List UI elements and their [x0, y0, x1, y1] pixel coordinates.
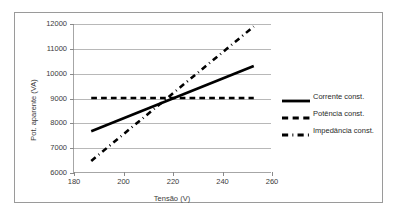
- legend-line-icon: [281, 92, 311, 102]
- y-tick-label: 6000: [50, 169, 67, 177]
- legend-item[interactable]: Potência const.: [281, 105, 381, 122]
- x-tick-mark: [74, 172, 75, 176]
- y-tick-label: 8000: [50, 120, 67, 128]
- x-tick-mark: [124, 172, 125, 176]
- x-tick-mark: [173, 172, 174, 176]
- legend-line-icon: [281, 126, 311, 136]
- plot-area: 6000700080009000100001100012000 18020022…: [73, 24, 271, 173]
- chart-frame: Pot. aparente (VA) Tensão (V) 6000700080…: [14, 12, 383, 203]
- y-axis-title: Pot. aparente (VA): [30, 79, 38, 141]
- legend-item[interactable]: Impedância const.: [281, 122, 381, 139]
- y-tick-label: 10000: [46, 70, 67, 78]
- series-layer: [74, 24, 271, 172]
- chart-root: Pot. aparente (VA) Tensão (V) 6000700080…: [0, 0, 399, 217]
- x-tick-label: 240: [216, 178, 229, 186]
- legend-label: Corrente const.: [313, 93, 364, 101]
- x-tick-mark: [272, 172, 273, 176]
- x-tick-label: 180: [68, 178, 81, 186]
- y-tick-label: 9000: [50, 95, 67, 103]
- series-line: [91, 26, 254, 160]
- x-tick-label: 200: [117, 178, 130, 186]
- legend-label: Impedância const.: [313, 127, 374, 135]
- x-axis-title: Tensão (V): [154, 195, 190, 203]
- legend-item[interactable]: Corrente const.: [281, 88, 381, 105]
- chart-legend: Corrente const.Potência const.Impedância…: [281, 88, 381, 139]
- x-tick-label: 260: [266, 178, 279, 186]
- x-tick-mark: [223, 172, 224, 176]
- legend-label: Potência const.: [313, 110, 364, 118]
- y-tick-label: 12000: [46, 20, 67, 28]
- y-tick-label: 11000: [47, 45, 67, 53]
- y-tick-label: 7000: [50, 144, 67, 152]
- legend-line-icon: [281, 109, 311, 119]
- x-tick-label: 220: [167, 178, 180, 186]
